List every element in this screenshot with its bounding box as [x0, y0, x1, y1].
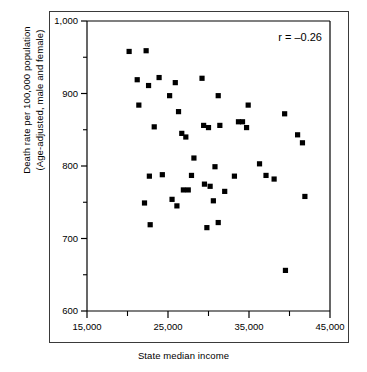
axes-group [87, 21, 330, 311]
x-tick-label: 15,000 [72, 321, 101, 332]
data-point [176, 109, 181, 114]
data-point [147, 174, 152, 179]
data-point [257, 161, 262, 166]
data-point [272, 176, 277, 181]
y-tick-label: 1,000 [54, 15, 78, 26]
data-point [148, 222, 153, 227]
data-point [144, 48, 149, 53]
data-point [300, 140, 305, 145]
y-tick-label: 800 [62, 160, 78, 171]
data-point [244, 125, 249, 130]
data-point [169, 197, 174, 202]
data-point [208, 184, 213, 189]
data-point [160, 172, 165, 177]
data-point [282, 111, 287, 116]
data-point [201, 123, 206, 128]
data-point [283, 268, 288, 273]
data-point [156, 75, 161, 80]
y-ticks-group: 6007008009001,000 [54, 15, 87, 316]
data-point [232, 174, 237, 179]
data-point [222, 189, 227, 194]
y-tick-label: 900 [62, 88, 78, 99]
data-point [135, 77, 140, 82]
plot-canvas: 6007008009001,000 15,00025,00035,00045,0… [0, 0, 367, 372]
data-point [246, 103, 251, 108]
data-point [295, 132, 300, 137]
data-point [142, 200, 147, 205]
data-point [152, 124, 157, 129]
data-point [189, 173, 194, 178]
data-point [183, 134, 188, 139]
data-point [206, 125, 211, 130]
data-point [302, 194, 307, 199]
data-point [127, 49, 132, 54]
y-tick-label: 700 [62, 233, 78, 244]
scatter-plot-figure: Death rate per 100,000 population (Age-a… [0, 0, 367, 372]
data-point [216, 93, 221, 98]
data-point [212, 164, 217, 169]
data-point [263, 173, 268, 178]
data-point [191, 155, 196, 160]
data-point [202, 182, 207, 187]
data-point [146, 83, 151, 88]
data-point [136, 103, 141, 108]
data-point [211, 198, 216, 203]
data-point [204, 225, 209, 230]
x-tick-label: 35,000 [234, 321, 263, 332]
data-point [216, 220, 221, 225]
x-tick-label: 25,000 [153, 321, 182, 332]
x-tick-label: 45,000 [315, 321, 344, 332]
data-point [174, 203, 179, 208]
data-point [181, 187, 186, 192]
data-point [217, 123, 222, 128]
correlation-annotation: r = –0.26 [278, 31, 322, 43]
data-point [173, 80, 178, 85]
data-points-group [127, 48, 308, 273]
data-point [240, 119, 245, 124]
y-tick-label: 600 [62, 305, 78, 316]
data-point [167, 93, 172, 98]
data-point [186, 187, 191, 192]
x-ticks-group: 15,00025,00035,00045,000 [72, 311, 344, 332]
data-point [199, 76, 204, 81]
